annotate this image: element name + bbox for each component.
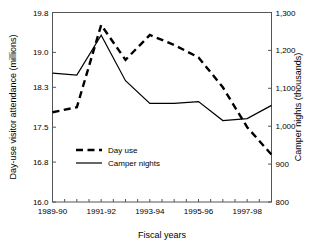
left-tick-label: 19.8	[33, 9, 49, 18]
line-chart: 16.016.817.518.319.019.8 8009001,0001,10…	[0, 0, 312, 243]
left-tick-label: 17.5	[33, 123, 49, 132]
left-tick-label: 16.8	[33, 158, 49, 167]
series-line-camper-nights	[53, 35, 272, 120]
legend-label-day-use: Day use	[108, 146, 138, 155]
y2-axis-title: Camper nights (thousands)	[293, 53, 303, 162]
right-tick-label: 1,300	[276, 9, 297, 18]
y-axis-title: Day-use visitor attendance (millions)	[8, 34, 18, 179]
x-tick-label: 1991-92	[86, 207, 116, 216]
x-axis-title: Fiscal years	[138, 230, 187, 240]
chart-legend: Day use Camper nights	[76, 146, 160, 168]
series-line-day-use	[53, 25, 272, 155]
x-tick-label: 1989-90	[38, 207, 68, 216]
chart-figure: 16.016.817.518.319.019.8 8009001,0001,10…	[0, 0, 312, 243]
right-tick-label: 800	[276, 198, 290, 207]
right-tick-label: 900	[276, 160, 290, 169]
x-axis-tick-labels: 1989-901991-921993-941995-961997-98	[38, 207, 263, 216]
x-tick-label: 1995-96	[184, 207, 214, 216]
data-series-layer	[53, 25, 272, 155]
left-axis-tick-labels: 16.016.817.518.319.019.8	[33, 9, 49, 208]
legend-label-camper-nights: Camper nights	[108, 159, 160, 168]
left-tick-label: 19.0	[33, 48, 49, 57]
left-tick-label: 18.3	[33, 83, 49, 92]
x-tick-label: 1997-98	[232, 207, 262, 216]
x-tick-label: 1993-94	[135, 207, 165, 216]
left-tick-label: 16.0	[33, 198, 49, 207]
left-axis-ticks	[53, 13, 57, 203]
